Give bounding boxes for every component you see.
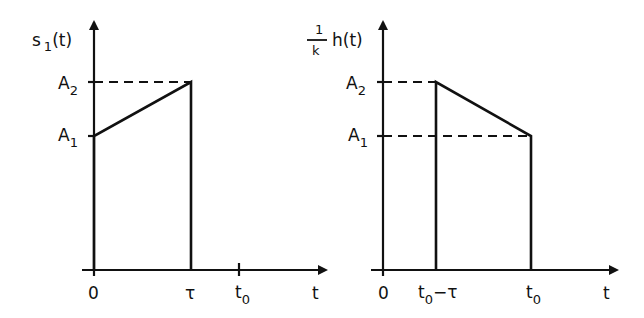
- left-x-axis-label: t: [312, 283, 319, 303]
- right-y-label-denominator: k: [312, 43, 320, 58]
- diagram-canvas: s1(t) A2 A1 0 τ t0 t 1 k h(t): [0, 0, 644, 318]
- left-plot: s1(t) A2 A1 0 τ t0 t: [32, 22, 326, 307]
- left-a2-label: A2: [58, 73, 78, 98]
- right-plot: 1 k h(t) A2 A1 0 t0−τ t0 t: [307, 22, 617, 307]
- right-x-t0-label: t0: [526, 282, 541, 307]
- right-x-axis-label: t: [603, 283, 610, 303]
- right-signal-h: [436, 82, 531, 270]
- right-y-label-function: h(t): [332, 30, 363, 50]
- left-x-t0-label: t0: [235, 282, 250, 307]
- left-signal-s1: [94, 82, 191, 270]
- left-y-label: s1(t): [32, 30, 72, 54]
- right-a2-label: A2: [346, 73, 366, 98]
- right-y-label-numerator: 1: [315, 22, 323, 37]
- right-x-origin-label: 0: [378, 283, 389, 303]
- left-x-origin-label: 0: [88, 283, 99, 303]
- right-x-t0-minus-tau-label: t0−τ: [418, 282, 457, 307]
- left-x-tau-label: τ: [185, 283, 195, 303]
- left-a1-label: A1: [58, 125, 78, 150]
- right-a1-label: A1: [348, 125, 368, 150]
